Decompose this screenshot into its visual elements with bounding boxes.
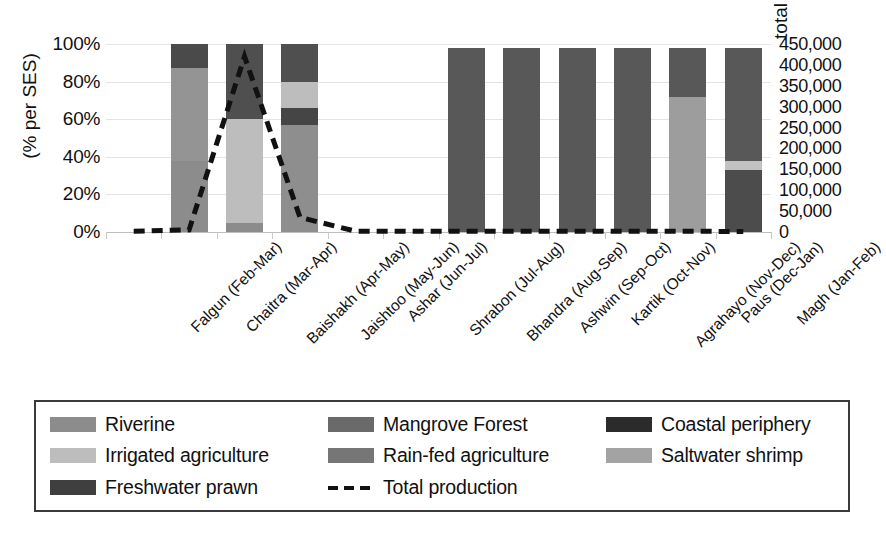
legend-item[interactable]: Irrigated agriculture — [50, 444, 328, 467]
legend-color-swatch — [606, 448, 652, 463]
legend-color-swatch — [606, 417, 652, 432]
legend-color-swatch — [50, 480, 96, 495]
plot-wrapper: (% per SES) 0%20%40%60%80%100% 050,00010… — [0, 0, 886, 400]
total-production-polyline — [134, 57, 744, 232]
legend-label: Mangrove Forest — [383, 413, 527, 436]
legend-color-swatch — [328, 417, 374, 432]
left-axis-tick-label: 60% — [63, 108, 100, 130]
legend-dashed-line-icon — [328, 480, 374, 495]
legend-item[interactable]: Rain-fed agriculture — [328, 444, 606, 467]
left-axis-tick-label: 80% — [63, 71, 100, 93]
legend-color-swatch — [50, 448, 96, 463]
legend-label: Rain-fed agriculture — [383, 444, 549, 467]
plot-area — [106, 44, 771, 232]
x-axis-category-label: Falgun (Feb-Mar) — [187, 238, 285, 336]
legend-label: Total production — [383, 476, 517, 499]
x-axis-category-labels: Falgun (Feb-Mar)Chaitra (Mar-Apr)Baishak… — [0, 232, 886, 392]
left-axis-tick-label: 40% — [63, 146, 100, 168]
legend-item[interactable]: Saltwater shrimp — [606, 444, 838, 467]
legend-label: Freshwater prawn — [105, 476, 258, 499]
legend-grid: RiverineMangrove ForestCoastal periphery… — [50, 409, 838, 503]
right-axis-tick-label: 400,000 — [779, 54, 841, 75]
legend-color-swatch — [328, 448, 374, 463]
right-axis-tick-label: 250,000 — [779, 117, 841, 138]
left-axis-tick-labels: 0%20%40%60%80%100% — [0, 44, 100, 232]
legend-label: Irrigated agriculture — [105, 444, 269, 467]
right-axis-tick-label: 150,000 — [779, 159, 841, 180]
legend-item[interactable]: Total production — [328, 476, 606, 499]
chart-figure: (% per SES) 0%20%40%60%80%100% 050,00010… — [0, 0, 886, 544]
right-axis-tick-label: 300,000 — [779, 96, 841, 117]
legend-item[interactable]: Freshwater prawn — [50, 476, 328, 499]
right-axis-tick-label: 50,000 — [779, 201, 832, 222]
right-axis-tick-label: 200,000 — [779, 138, 841, 159]
right-axis-tick-label: 100,000 — [779, 180, 841, 201]
left-axis-tick-label: 100% — [53, 33, 100, 55]
legend-label: Saltwater shrimp — [661, 444, 803, 467]
legend-item[interactable]: Coastal periphery — [606, 413, 838, 436]
left-axis-tick-label: 20% — [63, 183, 100, 205]
legend-color-swatch — [50, 417, 96, 432]
chart-legend: RiverineMangrove ForestCoastal periphery… — [34, 400, 850, 512]
total-production-line — [106, 44, 771, 232]
legend-label: Riverine — [105, 413, 175, 436]
right-axis-tick-label: 350,000 — [779, 75, 841, 96]
legend-item[interactable]: Riverine — [50, 413, 328, 436]
right-axis-tick-labels: 050,000100,000150,000200,000250,000300,0… — [779, 44, 871, 232]
legend-label: Coastal periphery — [661, 413, 810, 436]
legend-item[interactable]: Mangrove Forest — [328, 413, 606, 436]
right-axis-title: total production (kg) — [770, 0, 792, 50]
